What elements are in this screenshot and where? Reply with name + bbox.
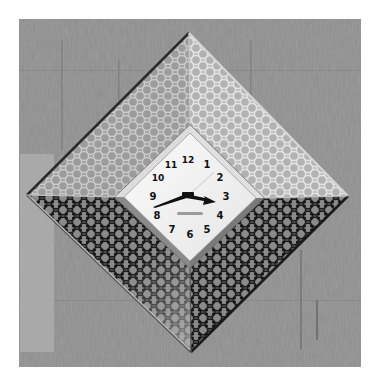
numeral-10: 10 (152, 173, 165, 183)
numeral-1: 1 (204, 159, 211, 170)
hand-hub (182, 192, 194, 198)
numeral-12: 12 (182, 155, 195, 165)
clock-photo: 121234567891011 (0, 0, 376, 377)
numeral-3: 3 (223, 191, 230, 202)
numeral-4: 4 (217, 210, 224, 221)
numeral-9: 9 (150, 191, 157, 202)
numeral-8: 8 (154, 210, 161, 221)
numeral-11: 11 (165, 160, 178, 170)
numeral-2: 2 (217, 172, 224, 183)
brand-label (177, 212, 203, 215)
numeral-6: 6 (187, 229, 194, 240)
numeral-5: 5 (204, 224, 211, 235)
numeral-7: 7 (169, 224, 176, 235)
